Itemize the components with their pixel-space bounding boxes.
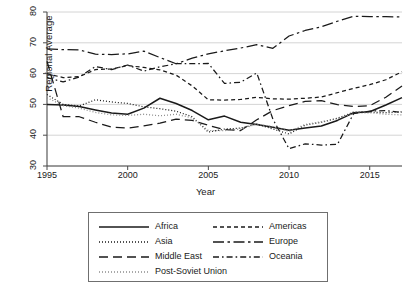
- chart-figure: Regional Average Year 304050607080199520…: [0, 0, 411, 288]
- legend-swatch-icon: [213, 252, 265, 262]
- series-line-middle-east: [47, 61, 402, 130]
- legend-swatch-icon: [213, 222, 265, 232]
- legend-swatch-icon: [99, 267, 151, 277]
- chart-legend: AfricaAmericasAsiaEuropeMiddle EastOcean…: [88, 212, 328, 282]
- x-tick-label: 2015: [352, 170, 388, 180]
- x-tick-label: 1995: [29, 170, 65, 180]
- y-tick-label: 80: [28, 0, 38, 22]
- x-tick-label: 2005: [190, 170, 226, 180]
- legend-label: Middle East: [155, 251, 202, 261]
- legend-swatch-icon: [99, 237, 151, 247]
- y-tick-label: 40: [28, 123, 38, 145]
- legend-label: Americas: [269, 221, 307, 231]
- series-line-europe: [47, 16, 402, 63]
- legend-swatch-icon: [213, 237, 265, 247]
- x-tick-label: 2010: [271, 170, 307, 180]
- x-axis-label: Year: [0, 186, 411, 197]
- legend-swatch-icon: [99, 222, 151, 232]
- x-tick-label: 2000: [110, 170, 146, 180]
- y-tick-label: 70: [28, 31, 38, 53]
- legend-swatch-icon: [99, 252, 151, 262]
- y-tick-label: 60: [28, 62, 38, 84]
- legend-label: Africa: [155, 221, 178, 231]
- y-axis-label: Regional Average: [43, 4, 54, 104]
- legend-label: Post-Soviet Union: [155, 266, 227, 276]
- series-line-africa: [47, 98, 402, 131]
- legend-label: Asia: [155, 236, 173, 246]
- legend-label: Oceania: [269, 251, 303, 261]
- legend-label: Europe: [269, 236, 298, 246]
- y-tick-label: 50: [28, 92, 38, 114]
